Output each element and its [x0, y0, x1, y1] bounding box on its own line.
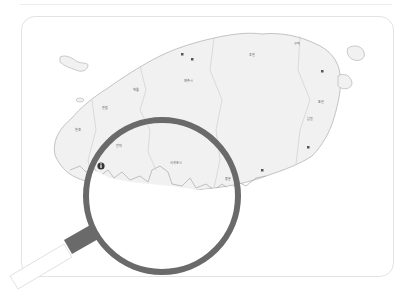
map-label: 표선: [318, 99, 324, 104]
east-islet: [338, 74, 352, 88]
city-marker-icon: [307, 146, 310, 149]
map-label: 제주시: [184, 78, 193, 83]
jeju-map-illustration: 제주시 애월 한림 한경 안덕 조천 구좌 표선 남원 서귀포시 중문: [0, 0, 410, 292]
city-marker-icon: [321, 70, 324, 73]
info-marker-icon: [97, 162, 104, 169]
map-label: 서귀포시: [170, 160, 182, 165]
map-label: 안덕: [116, 143, 122, 148]
map-label: 구좌: [294, 41, 300, 46]
map-label: 한림: [102, 105, 108, 110]
map-label: 남원: [307, 116, 313, 121]
udo-island: [347, 46, 364, 61]
map-label: 중문: [225, 177, 231, 181]
biyangdo-island: [60, 56, 88, 71]
map-label: 애월: [133, 87, 139, 92]
city-marker-icon: [261, 169, 264, 172]
magnifier-handle: [10, 224, 100, 289]
map-label: 조천: [249, 52, 255, 57]
jeju-island-landmass: [54, 33, 340, 190]
small-islet: [76, 98, 84, 102]
city-marker-icon: [181, 53, 184, 56]
city-marker-icon: [191, 58, 194, 61]
map-label: 한경: [75, 127, 81, 132]
